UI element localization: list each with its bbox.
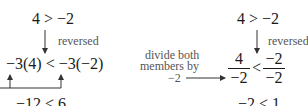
arrow-layer	[0, 0, 308, 106]
